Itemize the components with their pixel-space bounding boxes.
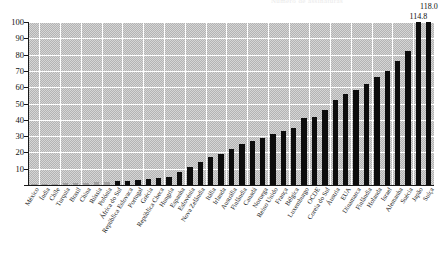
bar [353, 90, 358, 185]
y-axis-tick [24, 120, 28, 121]
bar-value-label: 118.0 [420, 2, 438, 11]
bar [395, 61, 400, 185]
y-axis-tick [24, 104, 28, 105]
y-axis-line [28, 22, 29, 186]
y-axis-tick-label: 10 [0, 164, 24, 174]
bar [426, 22, 431, 185]
y-axis-tick-label: 50 [0, 99, 24, 109]
y-axis-tick-label: 100 [0, 17, 24, 27]
x-axis-category-labels: MéxicoÍndiaChileTurquiaBrasilChinaRússia… [0, 186, 440, 272]
y-axis-tick [24, 22, 28, 23]
y-axis-tick-label: 30 [0, 131, 24, 141]
bar-chart: Número de assinaturas 102030405060708090… [0, 0, 440, 272]
y-axis-tick [24, 169, 28, 170]
y-axis-tick [24, 152, 28, 153]
y-axis-tick-label: 70 [0, 66, 24, 76]
y-axis-tick-label: 80 [0, 50, 24, 60]
y-axis-tick-label: 40 [0, 115, 24, 125]
bar [416, 22, 421, 185]
y-axis-tick [24, 38, 28, 39]
chart-title: Número de assinaturas [232, 0, 382, 6]
plot-area [29, 22, 434, 185]
y-axis-tick-label: 60 [0, 82, 24, 92]
y-axis-tick [24, 55, 28, 56]
bar-series [29, 22, 434, 185]
y-axis-tick [24, 87, 28, 88]
y-axis-tick-label: 90 [0, 33, 24, 43]
y-axis-tick-label: 20 [0, 147, 24, 157]
y-axis-tick [24, 71, 28, 72]
bar-value-label: 114.8 [410, 12, 428, 21]
y-axis-tick [24, 136, 28, 137]
